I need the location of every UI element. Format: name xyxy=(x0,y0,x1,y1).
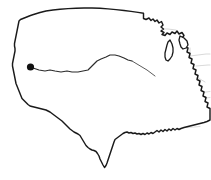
location-dot[interactable] xyxy=(27,63,34,70)
markers-group xyxy=(27,63,34,70)
us-map-svg xyxy=(0,0,211,180)
map-figure xyxy=(0,0,211,180)
